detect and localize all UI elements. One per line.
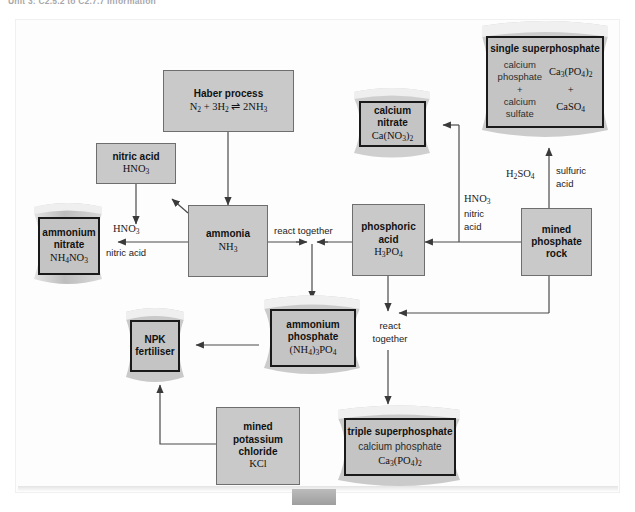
node-mined-potassium-chloride[interactable]: mined potassium chloride KCl [216,407,300,485]
canitrate-title: calcium nitrate [361,105,424,130]
phosphoric-title-2: acid [378,234,398,246]
ss-formula-1: Ca3(PO4)2 [549,65,592,79]
ammonium-nitrate-label: ammonium nitrate NH4NO3 [38,217,100,275]
ss-plus-2: + [568,83,574,97]
node-nitric-acid[interactable]: nitric acid HNO3 [96,143,176,184]
amphosphate-line-1: ammonium [286,319,339,331]
node-single-superphosphate[interactable]: single superphosphate calcium phosphate … [462,14,628,148]
singlesuper-content: calcium phosphate + calcium sulfate Ca3(… [498,59,593,121]
node-phosphoric-acid[interactable]: phosphoric acid H3PO4 [352,204,425,276]
edge-label-sulfuric: sulfuric [556,165,586,177]
kcl-line-2: potassium [233,434,283,446]
nitric-acid-title: nitric acid [112,151,159,163]
singlesuper-formulas: Ca3(PO4)2 + CaSO4 [549,65,592,114]
edge-label-react-bottom-2: together [364,333,416,345]
singlesuper-title: single superphosphate [490,43,599,55]
npk-line-2: fertiliser [135,346,174,358]
phosphoric-formula: H3PO4 [374,246,403,259]
node-mined-phosphate-rock[interactable]: mined phosphate rock [521,208,592,276]
triplesuper-formula: Ca3(PO4)2 [378,454,421,468]
node-haber-process[interactable]: Haber process N2 + 3H2 ⇌ 2NH3 [163,70,294,132]
node-npk-fertiliser[interactable]: NPK fertiliser [114,303,196,389]
canitrate-formula: Ca(NO3)2 [372,129,413,143]
ss-name-4: sulfate [506,108,534,120]
amphosphate-formula: (NH4)3PO4 [290,343,337,357]
edge-label-react-bottom-1: react [364,320,416,332]
node-ammonium-nitrate[interactable]: ammonium nitrate NH4NO3 [18,197,118,293]
amphosphate-line-2: phosphate [288,331,339,343]
diagram-stage: Unit 3: C2.5.2 to C2.7.7 Information [0,0,635,512]
ammonium-phosphate-label: ammonium phosphate (NH4)3PO4 [270,309,356,367]
triplesuper-subtitle: calcium phosphate [358,441,441,453]
edge-label-sulfuric-acid: acid [556,178,573,190]
node-triple-superphosphate[interactable]: triple superphosphate calcium phosphate … [318,399,480,494]
single-superphosphate-label: single superphosphate calcium phosphate … [486,36,604,128]
amnitrate-line-1: ammonium [42,227,95,239]
haber-equation: N2 + 3H2 ⇌ 2NH3 [190,101,268,114]
ss-plus-1: + [517,84,523,96]
ss-formula-2: CaSO4 [556,100,585,114]
node-ammonium-phosphate[interactable]: ammonium phosphate (NH4)3PO4 [248,290,376,382]
phosphoric-title-1: phosphoric [361,221,415,233]
edge-label-nitric-acid-left: nitric acid [106,247,146,259]
kcl-formula: KCl [249,458,267,471]
npk-line-1: NPK [144,334,165,346]
edge-kcl-to-npk [160,385,216,444]
ss-name-3: calcium [504,96,536,108]
edge-label-hno3-left: HNO3 [113,222,140,236]
singlesuper-names: calcium phosphate + calcium sulfate [498,59,542,121]
ss-name-2: phosphate [498,71,542,83]
kcl-line-1: mined [243,421,272,433]
node-calcium-nitrate[interactable]: calcium nitrate Ca(NO3)2 [340,83,444,165]
calcium-nitrate-label: calcium nitrate Ca(NO3)2 [359,101,426,147]
ammonia-title: ammonia [206,228,250,240]
edge-label-react-top: react together [274,225,333,237]
minedrock-line-1: mined [542,224,571,236]
edge-label-nitric-right: nitric [464,208,484,220]
minedrock-line-2: phosphate [531,236,582,248]
edge-label-acid-right: acid [464,221,481,233]
minedrock-line-3: rock [546,248,567,260]
npk-label: NPK fertiliser [130,320,180,372]
triplesuper-title: triple superphosphate [347,426,452,438]
amnitrate-formula: NH4NO3 [50,251,88,265]
edge-label-hno3-right: HNO3 [464,192,491,206]
edge-ammonia-to-nitric [172,199,188,213]
edge-label-h2so4: H2SO4 [506,167,535,181]
nitric-acid-formula: HNO3 [123,163,150,176]
triple-superphosphate-label: triple superphosphate calcium phosphate … [344,418,456,476]
amnitrate-line-2: nitrate [54,239,85,251]
ss-name-1: calcium [504,59,536,71]
node-ammonia[interactable]: ammonia NH3 [188,205,268,277]
ammonia-formula: NH3 [219,241,238,254]
kcl-line-3: chloride [239,446,278,458]
haber-title: Haber process [194,88,263,100]
